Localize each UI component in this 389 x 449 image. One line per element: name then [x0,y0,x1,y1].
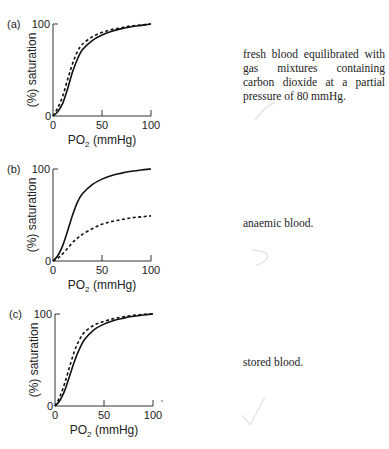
chart-a-y-tick-label-0: 0 [45,110,51,122]
chart-a-x-tick-label-100: 100 [142,119,160,131]
chart-b-y-tick-label-0: 0 [45,255,51,267]
caption-b: anaemic blood. [243,216,385,230]
chart-c-y-axis-label: (%) saturation [27,323,41,398]
caption-c: stored blood. [243,355,385,369]
chart-c-series-normal-line [55,314,153,406]
chart-c-x-axis-label: PO2 (mmHg) [70,423,138,439]
chart-a-y-axis-label: (%) saturation [25,33,39,108]
faint-mark-b [250,245,280,270]
chart-c-panel-label: (c) [9,308,22,320]
chart-a-y-tick-label-100: 100 [32,18,50,30]
chart-b-panel-label: (b) [7,163,20,175]
chart-b-x-tick-label-50: 50 [96,264,108,276]
chart-b-series-condition-line [53,216,151,261]
faint-mark-c [240,395,270,430]
chart-c-x-tick-label-50: 50 [98,409,110,421]
chart-b-series-normal-line [53,169,151,261]
chart-c-y-tick-label-100: 100 [34,308,52,320]
caption-a: fresh blood equilibrated with gas mixtur… [243,47,385,103]
stray-dot [161,400,163,402]
chart-b-x-tick-label-100: 100 [142,264,160,276]
chart-a-series-condition-line [53,24,151,116]
chart-a-x-axis-label: PO2 (mmHg) [68,133,136,149]
chart-b-x-axis-label: PO2 (mmHg) [68,278,136,294]
chart-a-x-tick-label-50: 50 [96,119,108,131]
chart-a-series-normal-line [53,24,151,116]
chart-c-x-tick-label-100: 100 [144,409,162,421]
faint-mark-a [250,100,280,125]
chart-b-y-tick-label-100: 100 [32,163,50,175]
chart-a-panel-label: (a) [7,18,20,30]
chart-c-y-tick-label-0: 0 [47,400,53,412]
chart-c-series-condition-line [55,314,153,406]
chart-b-y-axis-label: (%) saturation [25,178,39,253]
